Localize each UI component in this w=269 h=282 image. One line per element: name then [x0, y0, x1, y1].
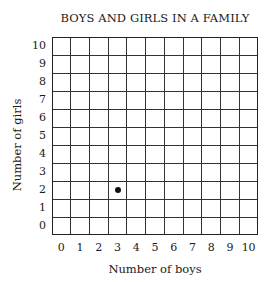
grid-line-horizontal: [53, 109, 257, 110]
x-tick-label: 10: [240, 241, 258, 254]
grid-line-horizontal: [53, 73, 257, 74]
x-tick-label: 4: [127, 241, 145, 254]
grid-line-horizontal: [53, 181, 257, 182]
x-tick-label: 3: [109, 241, 127, 254]
x-axis-label: Number of boys: [52, 262, 258, 276]
y-tick-label: 4: [28, 147, 46, 160]
x-tick-label: 6: [165, 241, 183, 254]
x-tick-label: 5: [146, 241, 164, 254]
x-tick-label: 9: [221, 241, 239, 254]
grid-line-vertical: [108, 38, 109, 234]
y-tick-label: 7: [28, 93, 46, 106]
y-tick-label: 9: [28, 57, 46, 70]
y-tick-label: 0: [28, 219, 46, 232]
y-axis-label: Number of girls: [10, 95, 24, 195]
chart-title: BOYS AND GIRLS IN A FAMILY: [0, 11, 269, 25]
x-tick-label: 0: [52, 241, 70, 254]
y-tick-label: 10: [28, 39, 46, 52]
y-tick-label: 1: [28, 201, 46, 214]
grid-line-vertical: [239, 38, 240, 234]
x-tick-label: 8: [202, 241, 220, 254]
grid-line-horizontal: [53, 199, 257, 200]
grid-line-horizontal: [53, 55, 257, 56]
y-tick-label: 5: [28, 129, 46, 142]
grid-line-vertical: [70, 38, 71, 234]
x-tick-label: 1: [71, 241, 89, 254]
plot-grid: [52, 37, 258, 235]
grid-line-vertical: [201, 38, 202, 234]
grid-line-vertical: [89, 38, 90, 234]
grid-line-vertical: [126, 38, 127, 234]
x-tick-label: 7: [183, 241, 201, 254]
x-tick-label: 2: [90, 241, 108, 254]
grid-line-horizontal: [53, 127, 257, 128]
grid-line-vertical: [220, 38, 221, 234]
grid-line-vertical: [183, 38, 184, 234]
grid-line-vertical: [164, 38, 165, 234]
grid-line-vertical: [145, 38, 146, 234]
grid-line-horizontal: [53, 91, 257, 92]
data-point: [115, 187, 121, 193]
grid-line-horizontal: [53, 145, 257, 146]
y-tick-label: 8: [28, 75, 46, 88]
y-tick-label: 6: [28, 111, 46, 124]
grid-line-horizontal: [53, 163, 257, 164]
y-tick-label: 3: [28, 165, 46, 178]
y-tick-label: 2: [28, 183, 46, 196]
grid-line-horizontal: [53, 217, 257, 218]
